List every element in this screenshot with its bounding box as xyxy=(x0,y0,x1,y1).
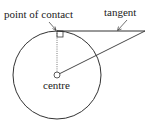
right-angle-marker xyxy=(57,31,63,37)
centre-marker xyxy=(54,72,60,78)
tangent-diagram: point of contact tangent centre xyxy=(0,0,149,121)
centre-to-external-line xyxy=(59,31,145,74)
centre-label: centre xyxy=(43,79,70,91)
tangent-label: tangent xyxy=(104,6,136,18)
point-of-contact-label: point of contact xyxy=(4,8,73,20)
tangent-pointer xyxy=(118,20,127,30)
